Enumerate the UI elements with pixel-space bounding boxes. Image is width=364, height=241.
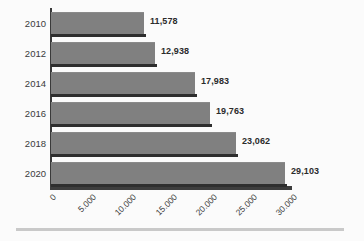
bar-value-2012: 12,938 bbox=[161, 46, 189, 56]
bars-layer: 11,578 12,938 17,983 19,763 23,062 29,10… bbox=[0, 0, 364, 241]
bar-2012 bbox=[51, 42, 155, 65]
bar-value-2010: 11,578 bbox=[150, 16, 178, 26]
bottom-divider bbox=[16, 228, 344, 231]
bar-2020 bbox=[51, 162, 285, 185]
bar-2010 bbox=[51, 12, 144, 35]
bar-chart: 2010 2012 2014 2016 2018 2020 11,578 12,… bbox=[0, 0, 364, 241]
bar-2014 bbox=[51, 72, 195, 95]
bar-shadow-2020 bbox=[51, 184, 287, 187]
bar-2016 bbox=[51, 102, 210, 125]
bar-value-2020: 29,103 bbox=[291, 166, 319, 176]
bar-shadow-2010 bbox=[51, 34, 146, 37]
bar-value-2014: 17,983 bbox=[201, 76, 229, 86]
bar-2018 bbox=[51, 132, 236, 155]
bar-shadow-2018 bbox=[51, 154, 238, 157]
bar-shadow-2012 bbox=[51, 64, 157, 67]
bar-shadow-2014 bbox=[51, 94, 197, 97]
bar-value-2018: 23,062 bbox=[242, 136, 270, 146]
bar-shadow-2016 bbox=[51, 124, 212, 127]
bar-value-2016: 19,763 bbox=[216, 106, 244, 116]
